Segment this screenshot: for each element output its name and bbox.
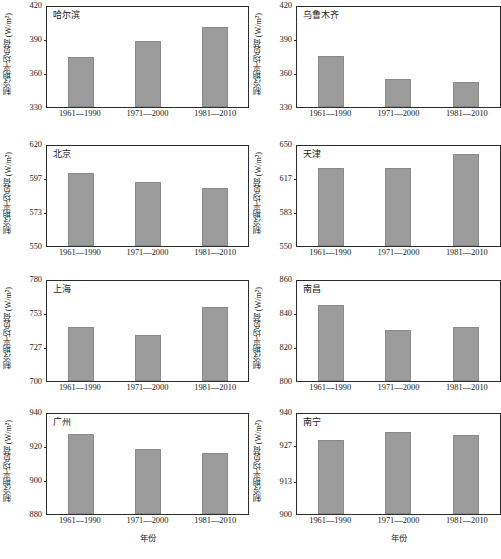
bar[interactable]: [385, 79, 411, 107]
y-tick-label: 330: [279, 104, 292, 112]
x-tick-label: 1971—2000: [378, 249, 420, 257]
plot-area: 天津: [296, 145, 501, 247]
x-axis-title: 年份: [296, 531, 501, 543]
bar[interactable]: [318, 305, 344, 382]
y-tick-label: 820: [279, 344, 292, 352]
y-axis-ticks: 550583617650: [268, 145, 294, 247]
y-tick-label: 900: [279, 511, 292, 519]
bar[interactable]: [453, 435, 479, 514]
bar[interactable]: [202, 453, 228, 514]
y-axis-label-text: 制冷期平均负荷 (W/m²): [255, 287, 263, 369]
bar[interactable]: [135, 182, 161, 246]
bar[interactable]: [68, 434, 94, 514]
y-axis-ticks: 550573597620: [18, 145, 44, 247]
x-axis-title: 年份: [46, 531, 249, 543]
x-tick-label: 1981—2010: [194, 110, 236, 118]
x-tick-label: 1981—2010: [194, 249, 236, 257]
x-tick-label: 1961—1990: [59, 517, 101, 525]
bar[interactable]: [202, 307, 228, 381]
y-axis-label: 制冷期平均负荷 (W/m²): [252, 0, 266, 108]
bar[interactable]: [453, 327, 479, 381]
chart-panel: 制冷期平均负荷 (W/m²)550573597620北京1961—1990197…: [0, 139, 250, 274]
y-tick-label: 780: [29, 276, 42, 284]
bar[interactable]: [135, 41, 161, 107]
y-tick-label: 583: [279, 209, 292, 217]
y-axis-ticks: 700727753780: [18, 280, 44, 382]
chart-panel: 制冷期平均负荷 (W/m²)880900920940广州1961—1990197…: [0, 407, 250, 547]
bar-series: [47, 414, 248, 514]
y-axis-label: 制冷期平均负荷 (W/m²): [2, 0, 16, 108]
y-tick-label: 550: [29, 243, 42, 251]
y-axis-label-text: 制冷期平均负荷 (W/m²): [5, 420, 13, 502]
chart-panel: 制冷期平均负荷 (W/m²)700727753780上海1961—1990197…: [0, 274, 250, 407]
plot-area: 北京: [46, 145, 249, 247]
y-axis-ticks: 330360390420: [268, 6, 294, 108]
x-tick-label: 1981—2010: [194, 517, 236, 525]
bar[interactable]: [318, 440, 344, 514]
x-tick-label: 1961—1990: [59, 384, 101, 392]
y-axis-label: 制冷期平均负荷 (W/m²): [2, 139, 16, 247]
plot-area: 南宁: [296, 413, 501, 515]
x-tick-label: 1971—2000: [127, 384, 169, 392]
x-axis-labels: 1961—19901971—20001981—2010: [46, 384, 249, 392]
bar[interactable]: [135, 449, 161, 514]
x-axis-labels: 1961—19901971—20001981—2010: [46, 110, 249, 118]
figure-caption: [0, 551, 501, 559]
x-tick-label: 1971—2000: [378, 110, 420, 118]
y-axis-ticks: 880900920940: [18, 413, 44, 515]
y-axis-ticks: 330360390420: [18, 6, 44, 108]
x-axis-labels: 1961—19901971—20001981—2010: [296, 249, 501, 257]
x-tick-label: 1981—2010: [194, 384, 236, 392]
y-tick-label: 920: [29, 443, 42, 451]
y-tick-label: 800: [279, 378, 292, 386]
y-axis-ticks: 800820840860: [268, 280, 294, 382]
bar[interactable]: [68, 173, 94, 246]
x-tick-label: 1981—2010: [446, 384, 488, 392]
y-tick-label: 360: [279, 70, 292, 78]
plot-area: 上海: [46, 280, 249, 382]
y-tick-label: 360: [29, 70, 42, 78]
bar[interactable]: [135, 335, 161, 381]
y-axis-label: 制冷期平均负荷 (W/m²): [252, 407, 266, 515]
y-tick-label: 900: [29, 477, 42, 485]
bar[interactable]: [385, 330, 411, 381]
y-axis-label-text: 制冷期平均负荷 (W/m²): [5, 13, 13, 95]
bar[interactable]: [385, 432, 411, 514]
x-tick-label: 1971—2000: [127, 249, 169, 257]
x-tick-label: 1961—1990: [309, 110, 351, 118]
bar[interactable]: [202, 27, 228, 107]
chart-panel: 制冷期平均负荷 (W/m²)900913927940南宁1961—1990197…: [250, 407, 501, 547]
bar-series: [47, 281, 248, 381]
plot-area: 乌鲁木齐: [296, 6, 501, 108]
bar[interactable]: [453, 82, 479, 107]
bar-series: [297, 414, 500, 514]
plot-area: 南昌: [296, 280, 501, 382]
bar-series: [47, 146, 248, 246]
x-tick-label: 1961—1990: [309, 249, 351, 257]
bar[interactable]: [202, 188, 228, 246]
y-axis-label-text: 制冷期平均负荷 (W/m²): [255, 420, 263, 502]
x-tick-label: 1971—2000: [378, 384, 420, 392]
y-tick-label: 620: [29, 141, 42, 149]
x-tick-label: 1961—1990: [59, 249, 101, 257]
bar[interactable]: [385, 168, 411, 246]
bar-series: [47, 7, 248, 107]
chart-panel: 制冷期平均负荷 (W/m²)330360390420乌鲁木齐1961—19901…: [250, 0, 501, 139]
y-tick-label: 927: [279, 442, 292, 450]
bar[interactable]: [318, 56, 344, 107]
bar[interactable]: [453, 154, 479, 246]
y-tick-label: 330: [29, 104, 42, 112]
bar[interactable]: [318, 168, 344, 246]
x-tick-label: 1971—2000: [127, 110, 169, 118]
y-tick-label: 550: [279, 243, 292, 251]
bar-series: [297, 146, 500, 246]
y-tick-label: 420: [29, 2, 42, 10]
x-axis-labels: 1961—19901971—20001981—2010: [296, 110, 501, 118]
bar[interactable]: [68, 57, 94, 107]
plot-area: 哈尔滨: [46, 6, 249, 108]
x-axis-labels: 1961—19901971—20001981—2010: [296, 384, 501, 392]
bar[interactable]: [68, 327, 94, 381]
x-tick-label: 1961—1990: [309, 384, 351, 392]
y-axis-label: 制冷期平均负荷 (W/m²): [2, 274, 16, 382]
y-tick-label: 700: [29, 378, 42, 386]
